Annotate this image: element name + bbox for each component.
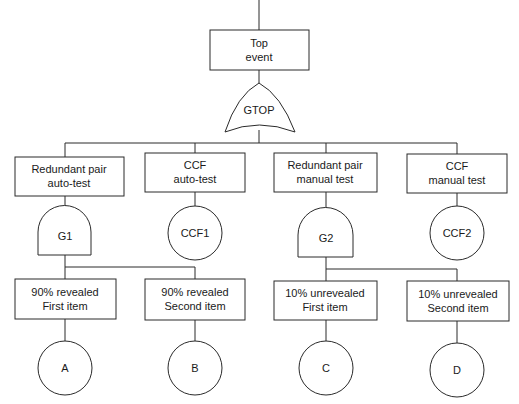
and-gate-g1: G1 xyxy=(38,206,91,256)
or-gate-gtop: GTOP xyxy=(225,83,295,132)
and-gate-g2: G2 xyxy=(298,207,353,257)
leaf-box-b: 90% revealed Second item xyxy=(145,279,245,320)
leaf-box-c: 10% unrevealed First item xyxy=(274,281,377,320)
ccf1-label: CCF1 xyxy=(181,227,210,239)
branch-3-line1: Redundant pair xyxy=(287,159,363,171)
branch-1-line2: auto-test xyxy=(48,177,91,189)
fault-tree-diagram: Top event GTOP Redundant pair auto-test … xyxy=(0,0,519,404)
basic-event-ccf2: CCF2 xyxy=(430,206,484,260)
branch-3-line2: manual test xyxy=(297,173,354,185)
branch-2-line1: CCF xyxy=(184,159,207,171)
leaf-b-line2: Second item xyxy=(164,300,225,312)
gtop-label: GTOP xyxy=(244,104,275,116)
basic-event-a: A xyxy=(38,341,92,395)
branch-4-line2: manual test xyxy=(429,174,486,186)
leaf-a-line2: First item xyxy=(42,300,87,312)
branch-box-redundant-auto: Redundant pair auto-test xyxy=(15,157,124,196)
branch-box-ccf-auto: CCF auto-test xyxy=(145,153,245,192)
branch-2-line2: auto-test xyxy=(174,173,217,185)
leaf-box-d: 10% unrevealed Second item xyxy=(407,281,509,321)
event-d-label: D xyxy=(453,364,461,376)
basic-event-b: B xyxy=(168,341,222,395)
basic-event-ccf1: CCF1 xyxy=(168,206,222,260)
branch-4-line1: CCF xyxy=(446,160,469,172)
event-c-label: C xyxy=(322,362,330,374)
leaf-c-line1: 10% unrevealed xyxy=(285,287,365,299)
event-b-label: B xyxy=(191,362,198,374)
branch-box-redundant-manual: Redundant pair manual test xyxy=(274,153,377,192)
leaf-box-a: 90% revealed First item xyxy=(15,279,116,319)
top-event-line2: event xyxy=(246,51,273,63)
basic-event-c: C xyxy=(299,341,353,395)
ccf2-label: CCF2 xyxy=(443,227,472,239)
branch-1-line1: Redundant pair xyxy=(31,163,107,175)
leaf-b-line1: 90% revealed xyxy=(161,286,228,298)
leaf-a-line1: 90% revealed xyxy=(31,286,98,298)
basic-event-d: D xyxy=(430,343,484,397)
g1-label: G1 xyxy=(58,230,73,242)
leaf-d-line1: 10% unrevealed xyxy=(418,288,498,300)
branch-box-ccf-manual: CCF manual test xyxy=(407,154,507,193)
top-event-line1: Top xyxy=(250,37,268,49)
leaf-d-line2: Second item xyxy=(427,302,488,314)
event-a-label: A xyxy=(61,362,69,374)
top-event-box: Top event xyxy=(210,30,309,70)
g2-label: G2 xyxy=(319,232,334,244)
leaf-c-line2: First item xyxy=(302,301,347,313)
